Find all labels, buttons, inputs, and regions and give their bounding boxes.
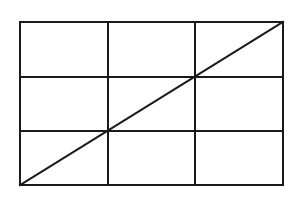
figure-background xyxy=(0,0,303,203)
figure-canvas xyxy=(0,0,303,203)
grid-rectangle-diagram xyxy=(0,0,303,203)
